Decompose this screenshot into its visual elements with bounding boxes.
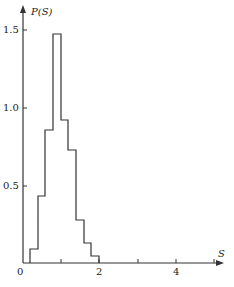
y-axis [20, 5, 27, 263]
origin-label: 0 [17, 266, 23, 277]
x-axis-arrow-icon [216, 260, 224, 266]
histogram-outline [30, 34, 99, 263]
y-tick-label-0.5: 0.5 [3, 180, 19, 191]
y-axis-label: P(S) [30, 6, 52, 17]
x-axis-label: S [218, 248, 225, 259]
x-tick-label-4: 4 [173, 266, 179, 277]
y-tick-label-1.5: 1.5 [3, 24, 19, 35]
x-axis [23, 259, 224, 266]
x-tick-label-2: 2 [96, 266, 102, 277]
chart: P(S) S 0 2 4 0.5 1.0 1.5 [0, 0, 234, 287]
y-axis-arrow-icon [20, 5, 26, 13]
y-tick-label-1.0: 1.0 [3, 102, 19, 113]
